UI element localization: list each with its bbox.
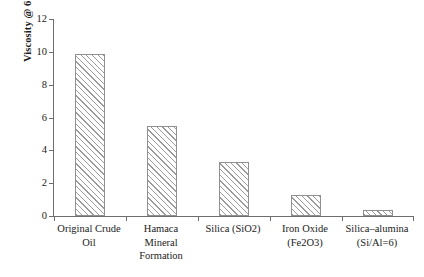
- x-axis-category-label-line: Silica (SiO2): [197, 222, 269, 236]
- x-axis-category-label-line: (Si/Al=6): [341, 236, 413, 250]
- x-axis-category-label: Silica–alumina(Si/Al=6): [341, 222, 413, 249]
- bar: [291, 195, 321, 216]
- y-axis-tick: [49, 118, 54, 119]
- bar: [219, 162, 249, 216]
- x-axis-tick: [413, 216, 414, 221]
- x-axis-category-label: HamacaMineralFormation: [125, 222, 197, 263]
- x-axis-category-label: Iron Oxide(Fe2O3): [269, 222, 341, 249]
- x-axis-category-label-line: Original Crude: [53, 222, 125, 236]
- y-axis-tick-label: 8: [42, 79, 47, 90]
- y-axis-tick-label: 6: [42, 112, 47, 123]
- x-axis-tick: [54, 216, 55, 221]
- bar: [147, 126, 177, 216]
- y-axis-tick-label: 10: [37, 47, 48, 58]
- y-axis-tick-label: 12: [37, 14, 48, 25]
- x-axis-tick: [342, 216, 343, 221]
- x-axis-category-label-line: Formation: [125, 249, 197, 263]
- y-axis-tick: [49, 19, 54, 20]
- x-axis-category-label: Original CrudeOil: [53, 222, 125, 249]
- y-axis-tick: [49, 183, 54, 184]
- x-axis-tick: [198, 216, 199, 221]
- y-axis-tick: [49, 85, 54, 86]
- y-axis-tick-label: 0: [42, 211, 47, 222]
- y-axis-tick-label: 2: [42, 178, 47, 189]
- x-axis-category-label-line: Mineral: [125, 236, 197, 250]
- plot-area: 024681012: [53, 19, 414, 217]
- x-axis-tick: [270, 216, 271, 221]
- x-axis-category-label-line: Iron Oxide: [269, 222, 341, 236]
- bar: [363, 210, 393, 216]
- x-axis-category-label: Silica (SiO2): [197, 222, 269, 236]
- y-axis-tick: [49, 52, 54, 53]
- x-axis-category-label-line: Silica–alumina: [341, 222, 413, 236]
- bar: [75, 54, 105, 216]
- y-axis-tick-label: 4: [42, 145, 47, 156]
- x-axis-category-label-line: Hamaca: [125, 222, 197, 236]
- x-axis-category-label-line: Oil: [53, 236, 125, 250]
- x-axis-category-label-line: (Fe2O3): [269, 236, 341, 250]
- y-axis-title: Viscosity @ 60oC (Pa s): [16, 0, 34, 107]
- y-axis-title-prefix: Viscosity @ 60: [22, 0, 33, 62]
- bar-chart-figure: Viscosity @ 60oC (Pa s) 024681012 Origin…: [0, 0, 424, 277]
- y-axis-tick: [49, 150, 54, 151]
- x-axis-tick: [126, 216, 127, 221]
